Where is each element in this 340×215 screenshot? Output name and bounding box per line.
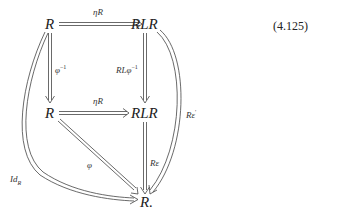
- label-top-horizontal: ηR: [93, 8, 103, 17]
- node-bottom: R.: [140, 195, 153, 210]
- node-top-right: RLR: [131, 17, 158, 32]
- node-mid-left: R: [45, 106, 54, 121]
- arrow-top-horizontal: [59, 20, 142, 29]
- label-mid-horizontal: ηR: [93, 97, 103, 106]
- arrow-diagonal: [58, 119, 138, 194]
- label-right-curve: Rε′: [186, 109, 196, 120]
- label-lower-vertical: Rε: [150, 159, 159, 168]
- arrow-lower-vertical: [141, 122, 150, 194]
- node-top-left: R: [45, 17, 54, 32]
- label-left-curve: IdR: [10, 175, 21, 186]
- node-mid-right: RLR: [131, 106, 158, 121]
- equation-number: (4.125): [273, 20, 308, 32]
- label-diagonal: φ: [87, 161, 92, 170]
- label-left-vertical: φ−1: [55, 64, 66, 75]
- arrow-mid-horizontal: [59, 109, 129, 118]
- arrow-right-vertical: [141, 33, 150, 103]
- label-right-vertical: RLφ−1: [116, 64, 138, 75]
- arrow-left-vertical: [46, 33, 55, 103]
